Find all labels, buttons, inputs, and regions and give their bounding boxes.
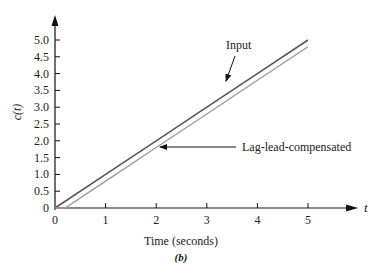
x-tick-label: 4 xyxy=(254,213,260,227)
x-tick-label: 2 xyxy=(153,213,159,227)
y-tick-label: 0 xyxy=(43,201,49,215)
y-tick-label: 4.0 xyxy=(34,67,49,81)
x-axis-arrow-icon xyxy=(346,205,358,212)
x-tick-label: 1 xyxy=(103,213,109,227)
x-tick-label: 5 xyxy=(305,213,311,227)
y-tick-label: 1.0 xyxy=(34,167,49,181)
series-line-lag-lead-compensated xyxy=(55,47,308,208)
x-tick-label: 0 xyxy=(52,213,58,227)
x-tick-label: 3 xyxy=(204,213,210,227)
y-axis-arrow-icon xyxy=(52,15,59,26)
x-axis: 012345 t xyxy=(52,200,368,227)
x-axis-label: Time (seconds) xyxy=(144,234,218,248)
annotation-input-label: Input xyxy=(226,38,252,52)
annotation-compensated-label: Lag-lead-compensated xyxy=(242,140,351,154)
y-tick-label: 3.0 xyxy=(34,100,49,114)
x-axis-end-label: t xyxy=(364,200,368,215)
annotation-input: Input xyxy=(226,38,252,52)
figure-caption: (b) xyxy=(175,251,188,264)
y-tick-label: 0.5 xyxy=(34,184,49,198)
y-axis-label: c(t) xyxy=(10,104,24,121)
y-tick-label: 2.0 xyxy=(34,134,49,148)
y-tick-label: 2.5 xyxy=(34,117,49,131)
annotation-input-arrow xyxy=(226,56,235,81)
y-tick-label: 3.5 xyxy=(34,83,49,97)
series-group xyxy=(55,40,308,208)
series-line-input xyxy=(55,40,308,208)
y-tick-label: 5.0 xyxy=(34,33,49,47)
chart-container: 00.51.01.52.02.53.03.54.04.55.0 012345 t… xyxy=(0,0,376,267)
y-tick-label: 4.5 xyxy=(34,50,49,64)
annotation-compensated: Lag-lead-compensated xyxy=(242,140,351,154)
y-tick-label: 1.5 xyxy=(34,151,49,165)
y-axis: 00.51.01.52.02.53.03.54.04.55.0 xyxy=(34,15,60,215)
